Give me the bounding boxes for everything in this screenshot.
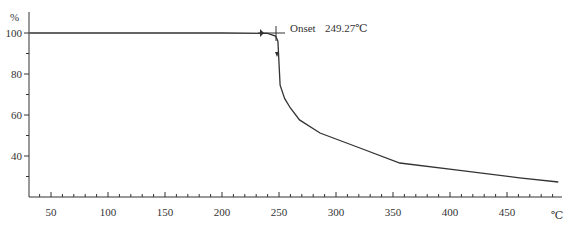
x-tick-label: 400	[442, 206, 459, 218]
x-tick-label: 100	[100, 206, 117, 218]
x-tick-label: 150	[157, 206, 174, 218]
y-unit-label: %	[10, 11, 19, 23]
x-tick-label: 250	[271, 206, 288, 218]
y-tick-label: 60	[11, 109, 23, 121]
y-tick-label: 80	[11, 68, 23, 80]
onset-marker	[258, 26, 285, 57]
x-tick-label: 300	[328, 206, 345, 218]
onset-value: 249.27℃	[325, 22, 368, 34]
x-tick-label: 50	[46, 206, 58, 218]
y-tick-label: 40	[11, 150, 23, 162]
onset-label: Onset	[290, 22, 316, 34]
x-tick-label: 200	[214, 206, 231, 218]
axes	[24, 12, 562, 197]
data-line	[29, 33, 558, 182]
x-unit-label: ℃	[551, 209, 563, 221]
tick-labels: 50100150200250300350400450100806040	[6, 27, 516, 218]
x-tick-label: 450	[499, 206, 516, 218]
x-tick-label: 350	[385, 206, 402, 218]
y-tick-label: 100	[6, 27, 23, 39]
tga-chart: 50100150200250300350400450100806040 % ℃ …	[0, 0, 572, 226]
